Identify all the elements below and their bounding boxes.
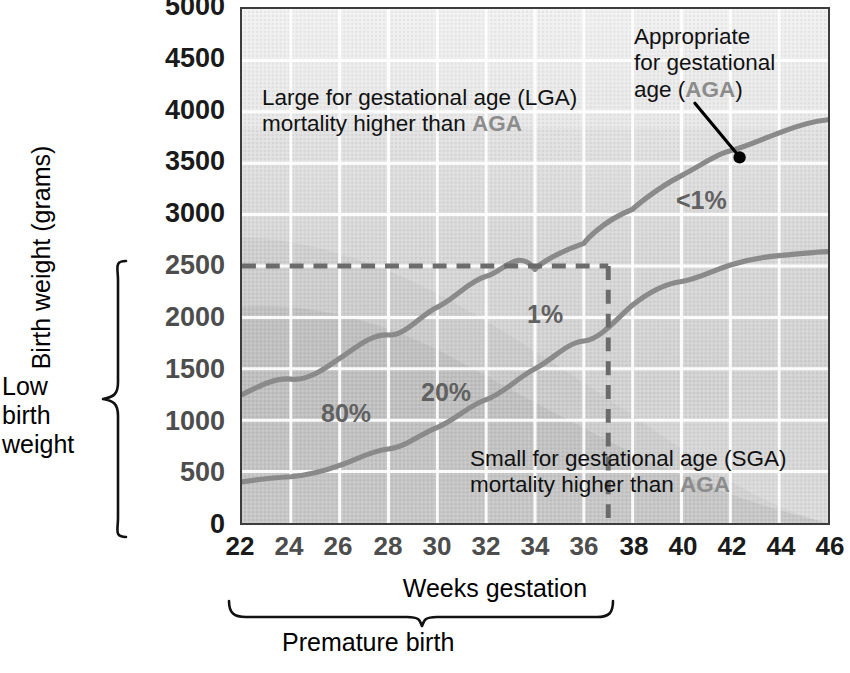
annotation-lga-line2: mortality higher than AGA bbox=[262, 111, 577, 137]
region-label-80-percent: 80% bbox=[321, 401, 371, 426]
y-tick-5000: 5000 bbox=[115, 0, 225, 20]
low-birth-weight-brace bbox=[100, 258, 130, 540]
region-label-less-than-1-percent: <1% bbox=[676, 188, 727, 213]
y-tick-2500: 2500 bbox=[115, 252, 225, 279]
chart-figure: Large for gestational age (LGA) mortalit… bbox=[0, 0, 850, 673]
annotation-aga: Appropriate for gestational age (AGA) bbox=[634, 24, 775, 103]
annotation-sga-aga-highlight: AGA bbox=[680, 472, 730, 497]
annotation-aga-line2: for gestational bbox=[634, 50, 775, 76]
region-label-1-percent: 1% bbox=[527, 302, 563, 327]
y-tick-3000: 3000 bbox=[115, 200, 225, 227]
region-label-20-percent: 20% bbox=[421, 380, 471, 405]
annotation-aga-line3-prefix: age ( bbox=[634, 77, 685, 102]
y-axis-title: Birth weight (grams) bbox=[27, 113, 56, 403]
low-birth-weight-label-line1: Low birth bbox=[2, 372, 102, 430]
annotation-sga: Small for gestational age (SGA) mortalit… bbox=[470, 446, 786, 499]
annotation-aga-aga-highlight: AGA bbox=[685, 77, 735, 102]
annotation-lga-line2-prefix: mortality higher than bbox=[262, 111, 472, 136]
annotation-aga-line1: Appropriate bbox=[634, 24, 775, 50]
annotation-lga-aga-highlight: AGA bbox=[472, 111, 522, 136]
annotation-aga-line3-suffix: ) bbox=[735, 77, 743, 102]
premature-birth-brace bbox=[226, 598, 616, 628]
plot-area: Large for gestational age (LGA) mortalit… bbox=[240, 7, 830, 525]
y-tick-3500: 3500 bbox=[115, 148, 225, 175]
annotation-aga-line3: age (AGA) bbox=[634, 77, 775, 103]
y-tick-1000: 1000 bbox=[115, 408, 225, 435]
y-tick-2000: 2000 bbox=[115, 304, 225, 331]
annotation-lga-line1: Large for gestational age (LGA) bbox=[262, 85, 577, 111]
low-birth-weight-label-line2: weight bbox=[2, 430, 102, 459]
annotation-sga-line1: Small for gestational age (SGA) bbox=[470, 446, 786, 472]
low-birth-weight-label: Low birth weight bbox=[2, 372, 102, 459]
y-tick-1500: 1500 bbox=[115, 356, 225, 383]
annotation-sga-line2-prefix: mortality higher than bbox=[470, 472, 680, 497]
annotation-sga-line2: mortality higher than AGA bbox=[470, 472, 786, 498]
annotation-lga: Large for gestational age (LGA) mortalit… bbox=[262, 85, 577, 138]
y-tick-0: 0 bbox=[115, 511, 225, 538]
y-tick-4500: 4500 bbox=[115, 45, 225, 72]
premature-birth-label: Premature birth bbox=[282, 628, 562, 657]
y-tick-4000: 4000 bbox=[115, 97, 225, 124]
y-tick-500: 500 bbox=[115, 459, 225, 486]
x-tick-46: 46 bbox=[800, 533, 850, 559]
